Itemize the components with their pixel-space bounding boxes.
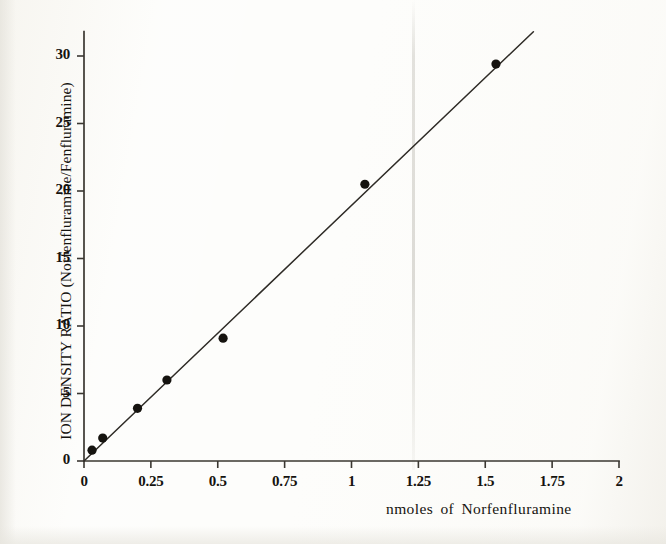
data-point [219, 334, 228, 343]
x-axis-ticks [84, 461, 619, 468]
figure-canvas: 05101520253000.250.50.7511.251.51.752 IO… [0, 0, 666, 544]
data-points [87, 60, 500, 455]
plot-area [0, 0, 666, 544]
x-tick-label: 2 [589, 473, 649, 490]
data-point [98, 433, 107, 442]
axes [84, 32, 619, 461]
x-tick-label: 0.25 [121, 473, 181, 490]
x-tick-label: 1.75 [522, 473, 582, 490]
fit-line-segment [84, 32, 533, 461]
x-tick-label: 1.5 [455, 473, 515, 490]
x-tick-label: 0.75 [255, 473, 315, 490]
x-axis-title: nmoles of Norfenfluramine [386, 500, 572, 518]
best-fit-line [84, 32, 533, 461]
y-axis-title: ION DENSITY RATIO (Norfenfluramine/Fenfl… [57, 51, 75, 471]
data-point [87, 446, 96, 455]
x-tick-label: 1.25 [388, 473, 448, 490]
x-tick-label: 1 [322, 473, 382, 490]
data-point [133, 404, 142, 413]
data-point [162, 375, 171, 384]
x-tick-label: 0.5 [188, 473, 248, 490]
x-tick-label: 0 [54, 473, 114, 490]
data-point [360, 180, 369, 189]
y-axis-ticks [77, 56, 84, 461]
data-point [491, 60, 500, 69]
